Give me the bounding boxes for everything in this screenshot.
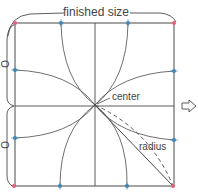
finished-size-label: finished size [63, 5, 129, 19]
half-length-label-top: O [0, 60, 10, 68]
radius-label: radius [139, 141, 166, 152]
left-half-braces [7, 24, 15, 187]
next-arrow-icon [182, 100, 196, 112]
quarter-circle-layout-diagram: finished size O O center ra [0, 0, 198, 195]
petal-arcs [15, 23, 174, 186]
center-label: center [112, 91, 140, 102]
half-length-label-bottom: O [0, 141, 10, 149]
